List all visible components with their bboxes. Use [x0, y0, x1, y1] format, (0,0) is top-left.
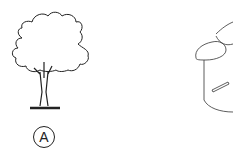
tree-icon — [0, 0, 116, 120]
figure-label-a: A — [33, 126, 55, 148]
bucket-icon — [116, 0, 233, 120]
